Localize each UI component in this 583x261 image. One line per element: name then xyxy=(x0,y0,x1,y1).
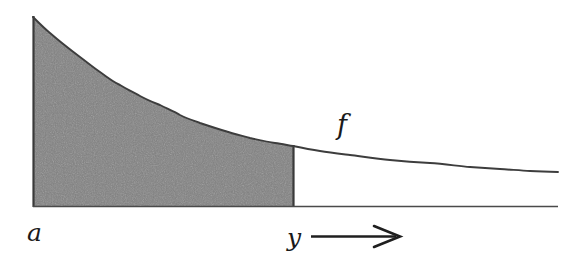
variable-label: y xyxy=(286,223,302,252)
function-label: f xyxy=(335,109,351,140)
shaded-region-fill xyxy=(33,17,558,206)
figure-canvas: a y f xyxy=(0,0,583,261)
figure-svg: a y f xyxy=(0,0,583,261)
lower-limit-label: a xyxy=(27,218,42,247)
shaded-area-under-curve xyxy=(33,17,558,206)
direction-arrow-icon xyxy=(311,226,400,247)
